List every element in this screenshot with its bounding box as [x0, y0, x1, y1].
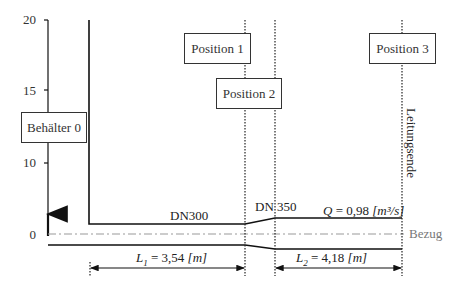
flow-value: = 0,98 [332, 203, 372, 218]
dn300-label: DN300 [170, 209, 208, 222]
l2-label: L2 = 4,18 [m] [296, 251, 367, 268]
tank-box: Behälter 0 [21, 112, 87, 143]
flow-unit: [m³/s] [372, 203, 404, 218]
position-3-box: Position 3 [369, 33, 436, 64]
y-tick-10: 10 [14, 156, 36, 169]
flow-rate-label: Q = 0,98 [m³/s] [323, 204, 404, 217]
y-tick-0: 0 [14, 228, 36, 241]
y-tick-15: 15 [14, 84, 36, 97]
l1-label: L1 = 3,54 [m] [136, 251, 207, 268]
lower-pipe [48, 245, 402, 249]
y-tick-20: 20 [14, 13, 36, 26]
flow-symbol: Q [323, 203, 332, 218]
line-end-label: Leitungsende [403, 108, 419, 178]
position-2-box: Position 2 [216, 78, 282, 109]
dn350-label: DN 350 [255, 200, 297, 213]
position-1-box: Position 1 [184, 33, 251, 64]
reference-label: Bezug [409, 227, 442, 240]
